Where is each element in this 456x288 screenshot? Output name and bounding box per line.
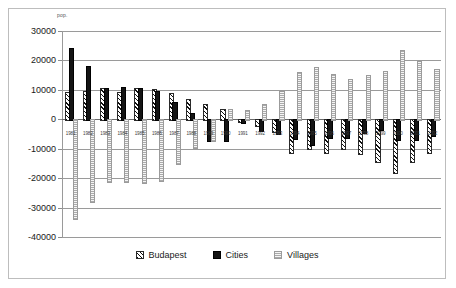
x-tick-label-1998: 1998 [359, 131, 369, 136]
x-tick-label-2001: 2001 [410, 131, 420, 136]
y-tick-label--20000: -20000 [28, 173, 56, 183]
x-tick-label-1995: 1995 [307, 131, 317, 136]
y-tick--40000 [58, 237, 62, 238]
legend-item-cities[interactable]: Cities [213, 250, 249, 260]
x-tick-label-1990: 1990 [221, 131, 231, 136]
legend-swatch-budapest-icon [136, 251, 144, 259]
legend-label-cities: Cities [226, 250, 249, 260]
x-tick-label-1981: 1981 [66, 131, 76, 136]
x-tick-label-1989: 1989 [204, 131, 214, 136]
x-tick-label-1986: 1986 [152, 131, 162, 136]
x-tick-label-1993: 1993 [273, 131, 283, 136]
y-tick-label-0: 0 [51, 114, 56, 124]
x-tick-label-1999: 1999 [376, 131, 386, 136]
x-tick-label-1991: 1991 [238, 131, 248, 136]
y-axis-tick-labels: 3000020000100000-10000-20000-30000-40000 [0, 31, 56, 237]
x-axis-tick-labels: 1981198219831984198519861987198819891990… [62, 0, 441, 206]
x-tick-label-1992: 1992 [255, 131, 265, 136]
x-tick-label-1983: 1983 [100, 131, 110, 136]
legend-swatch-villages-icon [274, 251, 282, 259]
x-tick-label-1984: 1984 [117, 131, 127, 136]
y-tick-label--40000: -40000 [28, 232, 56, 242]
x-tick-label-1997: 1997 [341, 131, 351, 136]
y-tick-label-10000: 10000 [31, 85, 56, 95]
x-tick-label-1985: 1985 [135, 131, 145, 136]
x-tick-label-1987: 1987 [169, 131, 179, 136]
y-tick-label-30000: 30000 [31, 26, 56, 36]
legend-item-villages[interactable]: Villages [274, 250, 318, 260]
x-tick-label-1996: 1996 [324, 131, 334, 136]
legend-label-budapest: Budapest [149, 250, 187, 260]
population-change-chart: pop. 3000020000100000-10000-20000-30000-… [0, 0, 456, 288]
x-tick-label-1988: 1988 [186, 131, 196, 136]
legend-swatch-cities-icon [213, 251, 221, 259]
legend-label-villages: Villages [287, 250, 318, 260]
x-tick-label-2002: 2002 [428, 131, 438, 136]
x-tick-label-1982: 1982 [83, 131, 93, 136]
y-tick-label-20000: 20000 [31, 55, 56, 65]
x-tick-label-1994: 1994 [290, 131, 300, 136]
x-tick-label-2000: 2000 [393, 131, 403, 136]
y-tick-label--10000: -10000 [28, 144, 56, 154]
legend-item-budapest[interactable]: Budapest [136, 250, 187, 260]
chart-legend: Budapest Cities Villages [8, 250, 446, 260]
y-tick-label--30000: -30000 [28, 203, 56, 213]
gridline--40000 [62, 237, 441, 238]
